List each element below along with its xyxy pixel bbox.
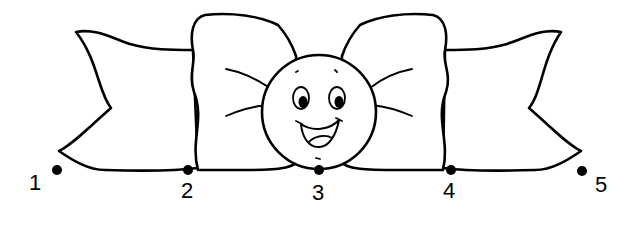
right-pupil [335,96,344,108]
left-ribbon [59,31,198,171]
right-ribbon [443,31,581,171]
dot-label-1: 1 [29,172,41,194]
dot-label-5: 5 [595,174,607,196]
left-eyebrow [296,71,298,72]
dot-5 [577,166,587,176]
chin-mark [316,158,320,159]
dot-3 [314,165,324,175]
smiley-face [262,55,376,169]
dot-2 [183,165,193,175]
dot-1 [52,165,62,175]
dot-label-4: 4 [443,180,455,202]
dot-4 [446,165,456,175]
left-pupil [299,96,308,108]
dot-label-3: 3 [312,182,324,204]
dot-label-2: 2 [181,180,193,202]
